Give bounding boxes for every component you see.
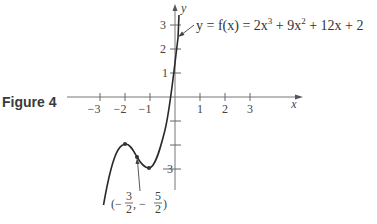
x-tick-label: −3: [88, 102, 101, 116]
inflection-arrow: [138, 161, 141, 191]
equation-part: + 9x: [272, 18, 301, 33]
x-tick-label: −1: [139, 102, 152, 116]
y-tick-label: 3: [160, 18, 166, 32]
equation-part: + 12x + 2: [306, 18, 364, 33]
y-axis-label: y: [180, 1, 187, 15]
x-tick-label: 2: [222, 102, 228, 116]
x-tick-label: 3: [247, 102, 253, 116]
point-label-close: ): [163, 197, 167, 211]
point-label-den1: 2: [126, 202, 132, 216]
y-tick-label: 3: [167, 162, 173, 176]
x-axis-label: x: [290, 97, 297, 111]
inflection-point-label: (− 3 2 , − 5 2 ): [111, 189, 167, 216]
x-tick-label: 1: [197, 102, 203, 116]
point-label-num1: 3: [126, 189, 132, 203]
x-tick-labels: −3 −2 −1 1 2 3 x: [88, 97, 298, 116]
y-tick-label: 1: [162, 66, 168, 80]
point-label-open: (−: [111, 197, 122, 211]
equation-label: y = f(x) = 2x3 + 9x2 + 12x + 2: [196, 16, 363, 34]
y-tick-label: 2: [160, 42, 166, 56]
y-tick-labels: 3 2 1 3 y: [160, 1, 187, 176]
point-label-den2: 2: [155, 202, 161, 216]
local-min-point: [147, 166, 151, 170]
point-label-sep: , −: [133, 197, 146, 211]
y-axis-arrow-icon: [173, 4, 178, 11]
x-tick-label: −2: [114, 102, 127, 116]
local-max-point: [123, 142, 127, 146]
equation-part: y = f(x) = 2x: [196, 18, 268, 34]
cubic-function-plot: −3 −2 −1 1 2 3 x 3 2 1 3 y (− 3 2 , − 5: [0, 0, 377, 224]
x-axis: [67, 95, 303, 100]
point-label-num2: 5: [155, 189, 161, 203]
